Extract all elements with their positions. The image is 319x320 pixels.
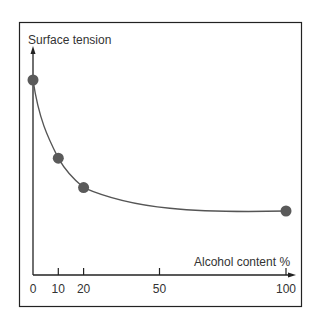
x-tick-label: 100 bbox=[276, 282, 296, 296]
y-axis-label: Surface tension bbox=[28, 33, 111, 47]
x-axis-label: Alcohol content % bbox=[194, 255, 290, 269]
x-tick-label: 50 bbox=[153, 282, 166, 296]
chart bbox=[0, 0, 319, 320]
data-point bbox=[53, 153, 64, 164]
x-tick-label: 20 bbox=[77, 282, 90, 296]
x-tick-label: 10 bbox=[52, 282, 65, 296]
x-tick-label: 0 bbox=[30, 282, 37, 296]
data-point bbox=[281, 206, 292, 217]
data-point bbox=[28, 75, 39, 86]
data-point bbox=[78, 182, 89, 193]
